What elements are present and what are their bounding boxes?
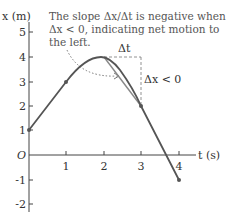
x-tick-label: 1 (63, 160, 70, 173)
y-ticks (29, 32, 33, 204)
x-tick-label: 2 (101, 160, 108, 173)
annotation-line-2: Δx < 0, indicating net motion to (49, 23, 219, 35)
slope-chord (104, 57, 141, 106)
delta-x-label: Δx < 0 (144, 73, 181, 86)
x-axis-label: t (s) (198, 149, 220, 162)
y-axis-label: x (m) (2, 10, 31, 23)
x-tick-label: 4 (176, 160, 183, 173)
x-ticks (66, 151, 179, 155)
y-tick-label: 5 (19, 26, 26, 39)
y-tick-label: 3 (19, 76, 26, 89)
x-tick-label: 3 (138, 160, 145, 173)
position-time-diagram: x (m) t (s) O 5 4 3 2 1 -1 -2 1 2 3 4 Th… (0, 0, 229, 221)
annotation-line-1: The slope Δx/Δt is negative when (49, 10, 226, 22)
origin-label: O (17, 149, 26, 162)
y-tick-label: -2 (15, 198, 26, 211)
y-tick-label: 1 (19, 124, 26, 137)
y-tick-label: 4 (19, 51, 26, 64)
delta-t-label: Δt (118, 42, 131, 55)
y-tick-label: 2 (19, 100, 26, 113)
y-tick-label: -1 (15, 174, 26, 187)
annotation-line-3: the left. (49, 36, 91, 48)
